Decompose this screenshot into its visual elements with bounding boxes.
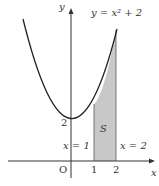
tick-y-2: 2 [61, 118, 67, 128]
origin-label: O [59, 165, 67, 175]
line2-label: x = 2 [120, 141, 147, 151]
y-axis-label: y [59, 2, 65, 12]
diagram-canvas [0, 0, 159, 186]
tick-x-1: 1 [91, 165, 97, 175]
shaded-region-s [94, 30, 116, 161]
region-label: S [100, 124, 107, 134]
y-axis-arrow-icon [69, 8, 74, 14]
x-axis-label: x [151, 168, 157, 178]
tick-x-2: 2 [113, 165, 119, 175]
line1-label: x = 1 [63, 141, 90, 151]
x-axis-arrow-icon [149, 159, 155, 164]
curve-label: y = x² + 2 [91, 8, 142, 18]
